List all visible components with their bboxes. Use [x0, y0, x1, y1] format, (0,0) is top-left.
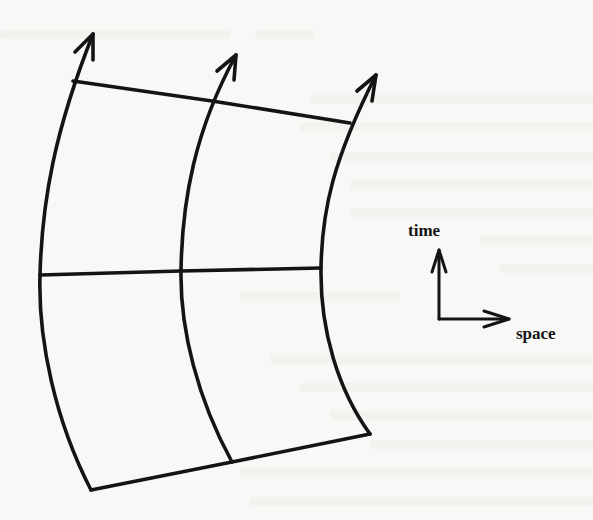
space-axis-label: space [516, 325, 556, 342]
worldline-right [321, 75, 376, 434]
time-axis-label: time [408, 222, 440, 239]
slice-top [73, 81, 350, 123]
figure-canvas: time space [0, 0, 593, 520]
worldline-middle [181, 55, 236, 462]
worldline-left [40, 34, 93, 490]
spacetime-diagram [0, 0, 593, 520]
axes-legend [432, 250, 509, 327]
slice-bottom [91, 434, 370, 490]
